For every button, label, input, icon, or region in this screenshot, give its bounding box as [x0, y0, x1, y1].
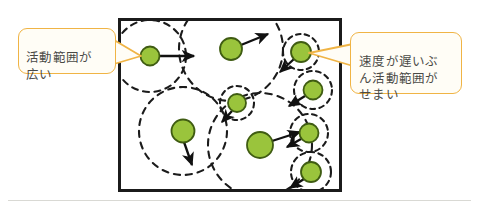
callout-right-tail [309, 44, 353, 66]
callout-right[interactable]: 速度が遅いぶ ん活動範囲が せまい [350, 32, 462, 94]
callout-left-text: 活動範囲が 広い [26, 50, 108, 83]
callout-right-text: 速度が遅いぶ ん活動範囲が せまい [359, 54, 454, 103]
callout-left[interactable]: 活動範囲が 広い [18, 28, 116, 74]
callout-left-tail [114, 40, 141, 64]
figure-stage: 活動範囲が 広い 速度が遅いぶ ん活動範囲が せまい 活動範囲の模式図 [0, 0, 479, 207]
